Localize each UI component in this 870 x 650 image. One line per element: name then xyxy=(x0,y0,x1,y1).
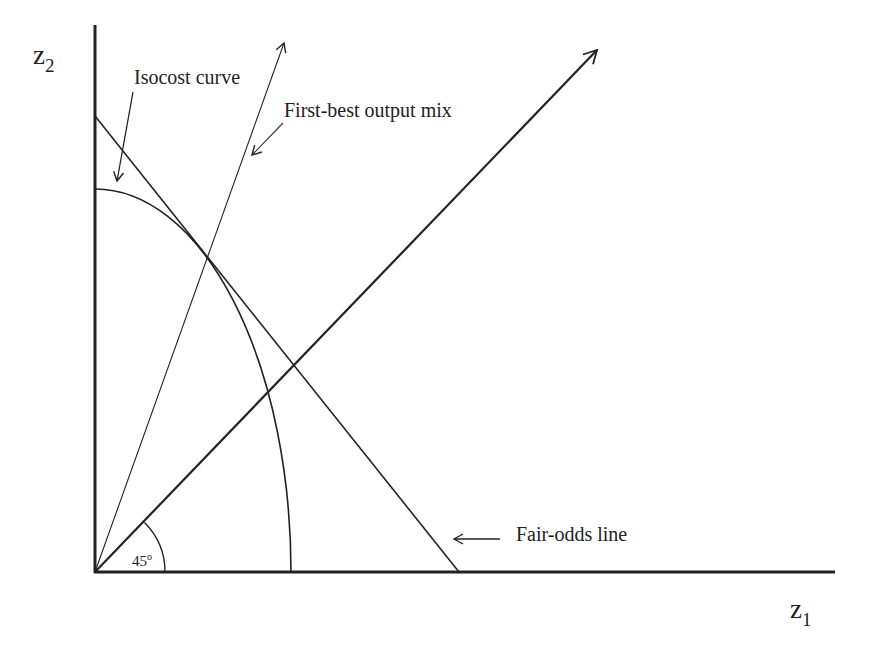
isocost-label: Isocost curve xyxy=(134,66,240,88)
angle-arc xyxy=(145,523,166,573)
isocost-diagram: z2 z1 Isocost curve First-best output mi… xyxy=(0,0,870,650)
first-best-pointer-arrow xyxy=(252,123,283,155)
angle-label: 45o xyxy=(132,551,152,569)
isocost-curve xyxy=(95,189,291,572)
fair-odds-line xyxy=(95,116,459,572)
isocost-pointer-arrow xyxy=(117,92,133,181)
x-axis-label: z1 xyxy=(790,594,811,630)
first-best-label: First-best output mix xyxy=(284,99,452,122)
y-axis-label: z2 xyxy=(33,40,54,76)
first-best-ray xyxy=(95,43,284,572)
certainty-line-45 xyxy=(95,50,597,572)
fair-odds-label: Fair-odds line xyxy=(516,523,627,545)
